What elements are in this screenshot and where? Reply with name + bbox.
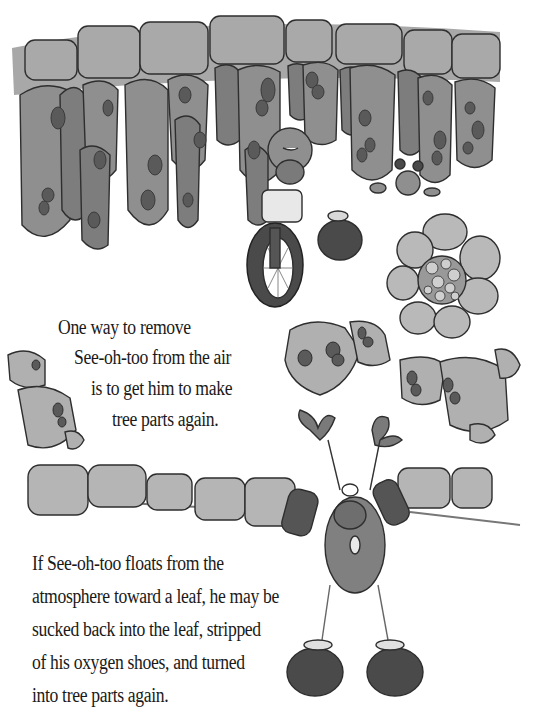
spongy-cells (8, 321, 520, 449)
passage-2-line-4: of his oxygen shoes, and turned (32, 651, 245, 674)
passage-1-line-1: One way to remove (58, 316, 191, 339)
passage-1-line-2: See-oh-too from the air (74, 346, 231, 369)
passage-1-line-4: tree parts again. (112, 408, 218, 431)
lower-epidermis (28, 465, 520, 526)
passage-2-line-3: sucked back into the leaf, stripped (32, 618, 261, 641)
passage-1-line-3: is to get him to make (91, 377, 232, 400)
vascular-bundle (387, 214, 500, 338)
passage-2-line-5: into tree parts again. (32, 684, 168, 707)
passage-2-line-1: If See-oh-too floats from the (32, 552, 224, 575)
passage-2-line-2: atmosphere toward a leaf, he may be (32, 585, 279, 608)
character-with-oxygen-shoes (287, 410, 423, 696)
